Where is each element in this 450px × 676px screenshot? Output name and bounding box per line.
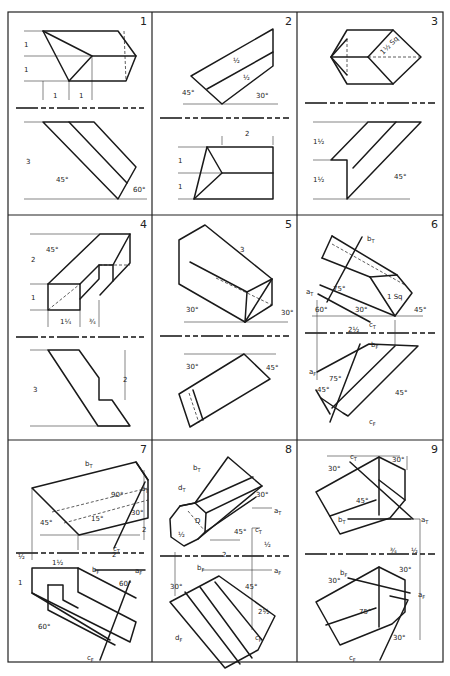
dimension-label: dF [175,634,182,643]
dimension-label: 45° [317,386,329,394]
dimension-label: cF [87,654,94,663]
dimension-label: 30° [328,577,340,585]
object-edge [205,497,256,532]
panel-number: 6 [431,218,438,231]
dimension-label: cF [255,634,262,643]
dimension-label: aT [274,507,282,516]
dimension-label: 1½ [52,559,63,567]
panel-number: 8 [285,443,292,456]
dimension-label: ¾ [390,547,397,555]
object-edge [43,122,136,199]
panel-3: 31½ Sq1½1½45° [305,15,438,199]
dimension-label: 1 Sq [387,293,403,301]
dimension-label: 45° [394,173,406,181]
dimension-label: ½ [233,57,240,65]
dimension-label: 45° [266,364,278,372]
dimension-label: aT [421,516,429,525]
dimension-label: 60° [133,186,145,194]
dimension-label: 45° [182,89,194,97]
dimension-label: bT [193,464,201,473]
hidden-line [48,284,80,310]
dimension-label: 1¼ [60,318,71,326]
dimension-label: 45° [395,389,407,397]
dimension-label: 1 [24,41,28,49]
dimension-label: 1 [79,92,83,100]
dimension-label: 2 [112,551,116,559]
panel-9: 9cT30°30°45°bTaT¾½30°bF30°aF75°30°cF [305,443,438,663]
dimension-label: 1½ Sq [379,35,400,56]
dimension-label: dT [178,484,186,493]
object-edge [350,462,413,519]
dimension-label: 2½ [258,608,269,616]
dimension-label: 30° [170,583,182,591]
dimension-label: 45° [245,583,257,591]
dimension-label: aF [135,567,142,576]
dimension-label: aF [418,591,425,600]
dimension-label: 90° [111,491,123,499]
dimension-label: bF [92,566,99,575]
dimension-label: 2 [222,551,226,559]
dimension-label: 1 [53,92,57,100]
object-edge [331,122,421,199]
panel-number: 7 [140,443,147,456]
object-edge [32,593,110,640]
object-edge [207,52,273,89]
exercise-grid: 11111345°60°2245°30°½½1131½ Sq1½1½45°421… [0,0,450,676]
dimension-label: 60° [38,623,50,631]
panel-4: 42145°1¼¾32 [16,218,147,426]
hidden-line [332,244,405,285]
object-edge [379,480,405,500]
panel-6: 6bTaT75°1 Sq60°30°45°cT2½bFaF75°45°45°cF [305,218,438,427]
object-edge [330,344,360,422]
dimension-label: 45° [56,176,68,184]
dimension-label: 30° [256,92,268,100]
panel-number: 3 [431,15,438,28]
panel-1: 11111345°60° [16,15,147,199]
panels: 11111345°60°2245°30°½½1131½ Sq1½1½45°421… [16,15,438,668]
dimension-label: 30° [399,566,411,574]
dimension-label: 2 [31,256,35,264]
panel-8: 8bTdT30°aT½D45°cT½2bFaF30°45°2½dFcF [160,443,292,668]
dimension-label: 45° [234,528,246,536]
panel-7: 7bTaT90°30°45°15°cT21½2bFaF60°60°cF½1 [16,443,149,663]
dimension-label: 30° [393,634,405,642]
object-edge [100,581,130,660]
dimension-label: 60° [315,306,327,314]
dimension-label: 75° [329,375,341,383]
dimension-label: cF [349,654,356,663]
dimension-label: 1 [18,579,22,587]
object-edge [368,57,393,84]
object-edge [69,122,127,183]
object-edge [48,350,130,426]
dimension-label: aF [309,368,316,377]
object-edge [170,576,275,668]
dimension-label: 3 [240,246,244,254]
dimension-label: 30° [328,465,340,473]
dimension-label: 75° [333,285,345,293]
dimension-label: 3 [33,386,37,394]
dimension-label: cT [350,453,358,462]
dimension-label: 45° [46,246,58,254]
dimension-label: 2 [245,130,249,138]
object-edge [190,262,247,292]
dimension-label: 1½ [313,176,324,184]
dimension-label: bT [367,235,375,244]
panel-number: 2 [285,15,292,28]
dimension-label: cT [255,526,263,535]
dimension-label: 30° [186,306,198,314]
object-edge [370,275,397,277]
dimension-label: bT [338,516,346,525]
dimension-label: 30° [131,509,143,517]
dimension-label: D [195,517,200,525]
dimension-label: 30° [281,309,293,317]
object-edge [332,346,395,408]
panel-number: 5 [285,218,292,231]
dimension-label: bF [340,569,347,578]
dimension-label: cF [369,418,376,427]
dimension-label: 1 [31,294,35,302]
dimension-label: aT [306,288,314,297]
dimension-label: 1 [178,183,182,191]
panel-number: 1 [140,15,147,28]
dimension-label: 30° [256,491,268,499]
dimension-label: 45° [414,306,426,314]
